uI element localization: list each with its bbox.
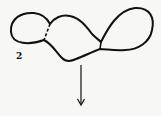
crossing-line <box>100 42 101 49</box>
diagram-canvas: 2 <box>0 0 161 116</box>
closed-curve <box>11 8 153 61</box>
curve-label: 2 <box>16 51 22 61</box>
dashed-segment <box>44 24 50 40</box>
